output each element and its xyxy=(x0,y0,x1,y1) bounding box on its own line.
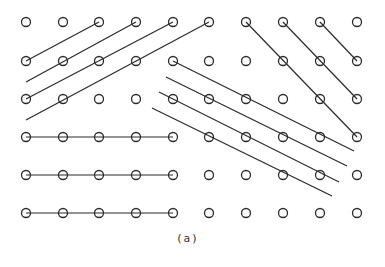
lattice-point xyxy=(205,95,214,104)
lattice-point xyxy=(316,209,325,218)
lattice-diagram xyxy=(0,0,385,267)
lattice-point xyxy=(353,171,362,180)
lattice-point xyxy=(59,18,68,27)
lattice-point xyxy=(242,57,251,66)
lattice-line-upper-left-rising xyxy=(26,22,209,120)
lattice-point xyxy=(242,209,251,218)
lattice-point xyxy=(279,133,288,142)
lattice-line-middle-falling xyxy=(152,108,332,196)
lattice-points xyxy=(22,18,362,218)
lattice-point xyxy=(59,57,68,66)
lattice-point xyxy=(242,171,251,180)
lattice-point xyxy=(95,95,104,104)
figure-caption: (a) xyxy=(176,232,199,245)
lattice-point xyxy=(205,57,214,66)
lattice-point xyxy=(353,18,362,27)
lattice-point xyxy=(132,95,141,104)
lattice-line-upper-left-rising xyxy=(26,22,99,61)
lattice-line-upper-right-falling xyxy=(246,22,357,137)
lattice-line-middle-falling xyxy=(166,77,347,166)
lattice-point xyxy=(353,209,362,218)
lattice-line-upper-right-falling xyxy=(320,22,357,61)
lattice-line-upper-left-rising xyxy=(26,22,173,99)
lattice-point xyxy=(205,209,214,218)
lattice-point xyxy=(205,171,214,180)
lattice-lines xyxy=(26,22,357,213)
lattice-line-upper-right-falling xyxy=(283,22,357,99)
lattice-point xyxy=(22,18,31,27)
lattice-point xyxy=(279,209,288,218)
lattice-point xyxy=(279,95,288,104)
lattice-line-middle-falling xyxy=(159,92,339,182)
